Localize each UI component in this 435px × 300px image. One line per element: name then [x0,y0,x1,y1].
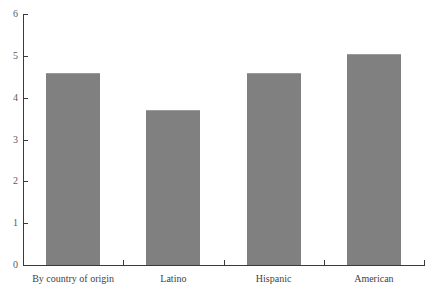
y-tick-label: 6 [13,9,18,19]
x-tick-mark [324,260,325,266]
bar [146,110,200,265]
category-label: Latino [160,274,186,284]
y-tick-mark [24,265,28,266]
y-tick-label: 2 [13,176,18,186]
bar-chart: 0123456 By country of originLatinoHispan… [0,0,435,300]
bar [247,73,301,265]
y-tick-label: 5 [13,51,18,61]
y-tick-mark [24,140,28,141]
y-tick-mark [24,98,28,99]
y-tick-label: 4 [13,93,18,103]
y-tick-mark [24,56,28,57]
y-tick-mark [24,223,28,224]
y-tick-mark [24,181,28,182]
y-tick-label: 3 [13,135,18,145]
category-label: Hispanic [256,274,292,284]
x-tick-mark [224,260,225,266]
y-tick-label: 0 [13,260,18,270]
y-tick-label: 1 [13,218,18,228]
x-tick-mark [123,260,124,266]
bar [347,54,401,265]
plot-area: 0123456 [23,14,424,265]
y-tick-mark [24,14,28,15]
bar [46,73,100,265]
x-tick-mark [424,260,425,266]
category-label: American [354,274,393,284]
category-label: By country of origin [32,274,114,284]
x-tick-mark [23,260,24,266]
